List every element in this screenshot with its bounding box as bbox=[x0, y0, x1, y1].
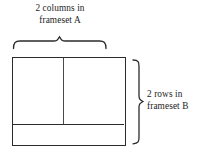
top-left-frame bbox=[13, 58, 63, 124]
right-curly-brace bbox=[133, 60, 143, 144]
rows-label: 2 rows in frameset B bbox=[147, 89, 214, 112]
top-right-frame bbox=[64, 58, 124, 124]
rows-label-line-2: frameset B bbox=[147, 101, 214, 113]
row-divider-line bbox=[13, 124, 124, 125]
frameset-diagram-box bbox=[12, 57, 126, 146]
column-divider-line bbox=[63, 58, 64, 125]
bottom-frame bbox=[13, 126, 124, 144]
columns-label: 2 columns in frameset A bbox=[0, 3, 120, 26]
columns-label-line-1: 2 columns in bbox=[0, 3, 120, 15]
columns-label-line-2: frameset A bbox=[0, 15, 120, 27]
rows-label-line-1: 2 rows in bbox=[147, 89, 214, 101]
top-curly-brace bbox=[14, 37, 107, 49]
frameset-diagram-figure: 2 columns in frameset A 2 rows in frames… bbox=[0, 0, 214, 161]
